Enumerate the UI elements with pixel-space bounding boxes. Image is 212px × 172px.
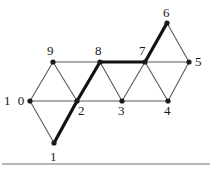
node-group: [27, 20, 191, 145]
node-label-9: 9: [47, 44, 54, 57]
node-label-1: 1: [50, 150, 57, 163]
graph-edge-10-9: [30, 62, 53, 101]
graph-node-7[interactable]: [142, 59, 147, 64]
graph-edge-2-8: [77, 62, 100, 101]
node-label-8: 8: [95, 44, 102, 57]
graph-edge-3-7: [122, 62, 145, 101]
thin-edge-group: [30, 23, 189, 143]
graph-edge-8-3: [100, 62, 122, 101]
graph-edge-4-5: [168, 62, 189, 101]
node-label-4: 4: [164, 104, 171, 117]
node-label-10: 1 0: [4, 94, 26, 107]
node-label-2: 2: [78, 104, 85, 117]
graph-node-1[interactable]: [51, 140, 56, 145]
graph-edge-1-2: [54, 101, 77, 143]
graph-edge-9-2: [53, 62, 77, 101]
graph-node-8[interactable]: [97, 59, 102, 64]
bold-edge-group: [54, 23, 167, 143]
graph-edge-7-4: [145, 62, 168, 101]
graph-node-5[interactable]: [186, 59, 191, 64]
graph-node-10[interactable]: [27, 98, 32, 103]
graph-svg: [0, 0, 212, 172]
node-label-5: 5: [195, 55, 202, 68]
graph-node-9[interactable]: [50, 59, 55, 64]
graph-edge-6-5: [167, 23, 189, 62]
graph-node-6[interactable]: [164, 20, 169, 25]
node-label-3: 3: [118, 104, 125, 117]
graph-edge-10-1: [30, 101, 54, 143]
node-label-7: 7: [139, 44, 146, 57]
node-label-6: 6: [163, 6, 170, 19]
graph-edge-7-6: [145, 23, 167, 62]
figure-canvas: 1234567891 0: [0, 0, 212, 172]
